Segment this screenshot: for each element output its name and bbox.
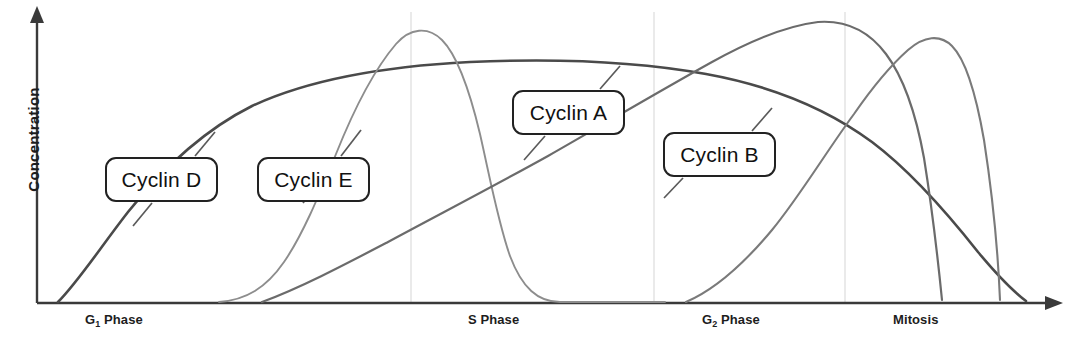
g2-phase-subscript: 2 (712, 319, 717, 329)
mitosis-label-text: Mitosis (893, 312, 938, 327)
g2-phase-label-text: G (702, 312, 712, 327)
g1-phase-subscript: 1 (95, 319, 100, 329)
axis-arrow-up-icon (30, 6, 44, 23)
g1-phase-label-suffix: Phase (100, 312, 143, 327)
g1-phase-label: G1 Phase (85, 312, 143, 327)
g2-phase-label-suffix: Phase (717, 312, 760, 327)
leader-cyclin-d (133, 203, 152, 226)
callout-cyclin-a[interactable]: Cyclin A (512, 90, 625, 135)
g1-phase-label-text: G (85, 312, 95, 327)
cyclin-concentration-chart: Concentration Cyclin D Cyclin E Cyclin A… (0, 0, 1072, 342)
y-axis-title: Concentration (25, 60, 42, 220)
s-phase-label: S Phase (468, 312, 519, 327)
leader-cyclin-b (664, 178, 683, 198)
callout-cyclin-b-label: Cyclin B (680, 143, 759, 167)
mitosis-label: Mitosis (893, 312, 938, 327)
leader-cyclin-a (524, 136, 545, 160)
gridlines-group (411, 12, 845, 303)
leader-cyclin-b-upper (752, 108, 772, 131)
s-phase-label-text: S Phase (468, 312, 519, 327)
leader-cyclin-a-upper (600, 66, 620, 89)
callout-cyclin-e[interactable]: Cyclin E (257, 157, 370, 202)
g2-phase-label: G2 Phase (702, 312, 760, 327)
callout-cyclin-d[interactable]: Cyclin D (105, 157, 218, 202)
callout-cyclin-e-label: Cyclin E (274, 168, 353, 192)
axis-arrow-right-icon (1045, 296, 1063, 310)
callout-cyclin-a-label: Cyclin A (530, 101, 607, 125)
callout-cyclin-d-label: Cyclin D (122, 168, 202, 192)
callout-cyclin-b[interactable]: Cyclin B (663, 132, 776, 177)
